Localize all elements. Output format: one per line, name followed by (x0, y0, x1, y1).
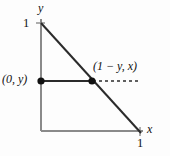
y-axis-label: y (38, 2, 43, 14)
y-axis-tick-label-1: 1 (23, 17, 29, 30)
x-axis-label: x (147, 123, 152, 135)
right-point-label: (1 − y, x) (93, 60, 137, 72)
right-point-marker (88, 77, 95, 84)
x-axis-tick-label-1: 1 (137, 137, 143, 150)
left-point-label: (0, y) (2, 73, 27, 85)
unit-triangle-diagram: y x 1 1 (0, y) (1 − y, x) (0, 0, 170, 156)
left-point-marker (37, 77, 44, 84)
